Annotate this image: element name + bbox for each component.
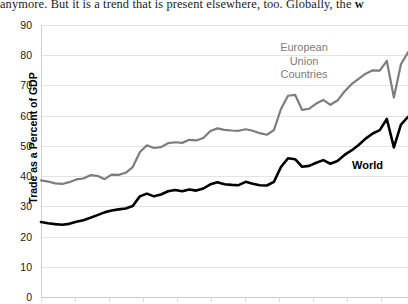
x-axis-tick xyxy=(109,297,110,302)
x-axis-tick xyxy=(381,297,382,302)
y-axis-tick-label: 50 xyxy=(0,140,32,152)
y-axis-tick-label: 60 xyxy=(0,110,32,122)
x-axis-tick xyxy=(279,297,280,302)
y-axis-tick-label: 30 xyxy=(0,200,32,212)
x-axis-tick xyxy=(245,297,246,302)
x-axis-tick xyxy=(313,297,314,302)
series-label-world: World xyxy=(352,159,383,171)
y-axis-tick-label: 0 xyxy=(0,291,32,303)
x-axis-tick xyxy=(347,297,348,302)
x-axis-line xyxy=(41,297,408,298)
x-axis-tick xyxy=(41,297,42,302)
document-body-text-bold-run: w xyxy=(355,0,364,11)
series-label-european-union: EuropeanUnionCountries xyxy=(256,41,352,82)
y-axis-tick-label: 20 xyxy=(0,231,32,243)
x-axis-tick xyxy=(177,297,178,302)
series-label-line: European xyxy=(256,41,352,55)
x-axis-tick xyxy=(211,297,212,302)
document-body-text-run: anymore. But it is a trend that is prese… xyxy=(0,0,355,11)
x-axis-tick xyxy=(75,297,76,302)
y-axis-tick-label: 10 xyxy=(0,261,32,273)
y-axis-tick-label: 70 xyxy=(0,79,32,91)
y-axis-tick-label: 90 xyxy=(0,19,32,31)
y-axis-tick-label: 80 xyxy=(0,49,32,61)
chart-figure: Trade as a Percent of GDP 01020304050607… xyxy=(0,14,408,304)
y-axis-tick-labels: 0102030405060708090 xyxy=(0,14,36,304)
series-label-line: Countries xyxy=(256,68,352,82)
series-label-line: Union xyxy=(256,55,352,69)
x-axis-tick xyxy=(143,297,144,302)
document-body-text: anymore. But it is a trend that is prese… xyxy=(0,0,408,14)
y-axis-tick-label: 40 xyxy=(0,170,32,182)
